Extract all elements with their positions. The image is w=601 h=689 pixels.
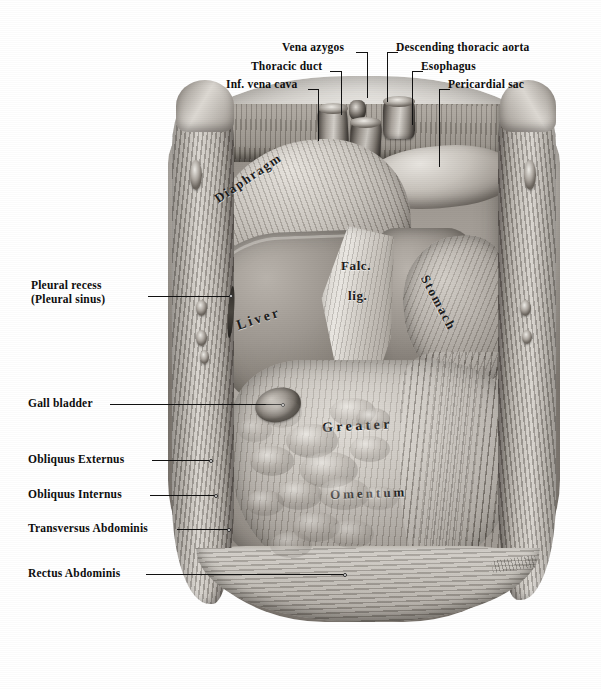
leader-line-h-pericardial-sac [439,89,450,90]
omentum-lobule [250,446,294,476]
leader-line-h-descending-thoracic-aorta [387,52,398,53]
leader-line-v-pericardial-sac [439,89,440,167]
leader-line-h-rectus-abdominis [146,574,344,575]
leader-line-h-obliquus-externus [152,460,210,461]
omentum-lobule [238,418,272,442]
rib-cross-section [196,300,207,316]
leader-line-v-inf-vena-cava [318,89,319,141]
leader-line-v-esophagus [412,71,413,125]
leader-line-h-esophagus [412,71,423,72]
omentum-lobule [356,408,390,430]
leader-line-v-thoracic-duct [341,71,342,115]
rib-cross-section [200,350,209,364]
leader-line-h-transversus-abdominis [177,529,228,530]
leader-line-v-descending-thoracic-aorta [387,52,388,102]
eso-cut-lip [350,117,381,128]
omentum-lobule [360,486,398,510]
leader-line-h-pleural-recess [148,296,230,297]
omentum-lobule [350,436,390,462]
anatomy-plate: Vena azygosThoracic ductInf. vena cavaDe… [0,0,601,689]
leader-line-v-vena-azygos [367,52,368,98]
rib-cross-section [524,160,536,190]
callout-label-esophagus: Esophagus [421,59,476,73]
ivc-cut-lip [318,103,348,114]
callout-label-descending-thoracic-aorta: Descending thoracic aorta [396,40,529,54]
rib-cross-section [196,330,207,346]
leader-line-h-obliquus-internus [150,495,215,496]
omentum-lobule [330,520,374,548]
omentum-lobule [270,532,312,558]
rib-cross-section [190,160,202,190]
callout-label-pericardial-sac: Pericardial sac [448,77,524,91]
rib-cross-section [520,300,531,316]
lower-body-wall [196,548,540,622]
omentum-lobule [246,490,284,516]
leader-line-h-gall-bladder [110,404,282,405]
rib-cross-section [522,330,532,344]
